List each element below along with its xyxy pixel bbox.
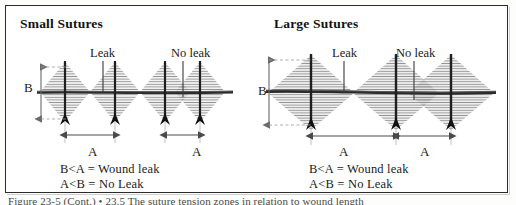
small-sutures-drawing	[5, 5, 256, 188]
large-sutures-drawing	[256, 5, 508, 188]
suture-tension-figure: Small Sutures Leak No leak B A A B<A = W…	[0, 0, 516, 205]
suture-knot-group-small	[60, 113, 205, 125]
incision-line	[37, 92, 233, 93]
panel-large-sutures: Large Sutures Leak No leak B A A B<A = W…	[256, 5, 508, 188]
panel-small-sutures: Small Sutures Leak No leak B A A B<A = W…	[5, 5, 256, 188]
suture-knot-group-large	[306, 117, 456, 130]
figure-caption: Figure 23-5 (Cont.) • 23.5 The suture te…	[8, 195, 508, 205]
